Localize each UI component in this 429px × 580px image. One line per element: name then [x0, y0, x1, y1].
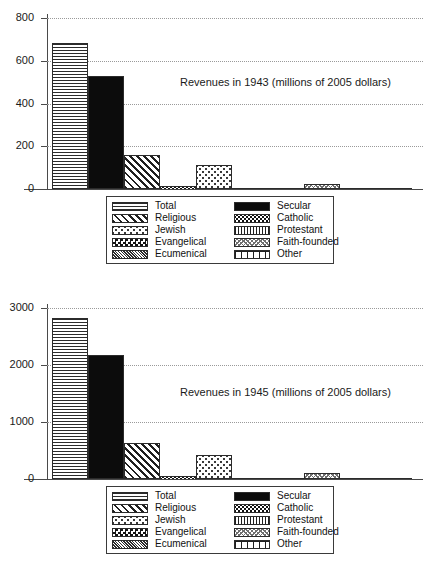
legend-swatch-catholic [234, 504, 270, 513]
legend-label-catholic: Catholic [277, 503, 339, 513]
legend-swatch-protestant [234, 516, 270, 525]
gridline [47, 18, 423, 19]
legend-label-secular: Secular [277, 201, 339, 211]
bar-evangelical [268, 188, 304, 190]
y-axis-tick-label: 800 [0, 12, 34, 23]
figure-page: Revenues in 1943 (millions of 2005 dolla… [0, 0, 429, 580]
legend-label-ecumenical: Ecumenical [155, 249, 229, 259]
legend-swatch-ecumenical [112, 250, 148, 259]
y-axis-tick-label: 600 [0, 55, 34, 66]
legend-swatch-faith-founded [234, 238, 270, 247]
legend-swatch-religious [112, 504, 148, 513]
legend-label-total: Total [155, 201, 229, 211]
legend-swatch-secular [234, 492, 270, 501]
legend-swatch-other [234, 250, 270, 259]
legend-label-evangelical: Evangelical [155, 527, 229, 537]
y-axis-tick [41, 104, 47, 105]
bar-protestant [232, 188, 268, 190]
plot-area-1945: Revenues in 1945 (millions of 2005 dolla… [47, 308, 423, 479]
legend-label-ecumenical: Ecumenical [155, 539, 229, 549]
y-axis-tick-label: 2000 [0, 359, 34, 370]
y-axis-tick [41, 479, 47, 480]
bar-jewish [196, 455, 232, 479]
legend-swatch-jewish [112, 516, 148, 525]
plot-area-1943: Revenues in 1943 (millions of 2005 dolla… [47, 18, 423, 189]
x-axis-line-1945 [24, 479, 423, 480]
y-axis-tick-label: 0 [0, 183, 34, 194]
legend-label-other: Other [277, 539, 339, 549]
y-axis-tick [41, 18, 47, 19]
legend-swatch-other [234, 540, 270, 549]
legend-swatch-religious [112, 214, 148, 223]
legend-swatch-total [112, 492, 148, 501]
bar-other [376, 188, 412, 190]
plot-title-1943: Revenues in 1943 (millions of 2005 dolla… [180, 76, 391, 89]
bar-jewish [196, 165, 232, 189]
legend-swatch-total [112, 202, 148, 211]
bar-secular [88, 355, 124, 479]
bar-other [376, 478, 412, 480]
bar-evangelical [268, 478, 304, 480]
bar-catholic [160, 476, 196, 479]
bar-secular [88, 76, 124, 189]
legend-label-secular: Secular [277, 491, 339, 501]
bar-faith-founded [304, 473, 340, 479]
legend-label-protestant: Protestant [277, 515, 339, 525]
y-axis-tick-label: 400 [0, 98, 34, 109]
bar-total [52, 43, 88, 189]
y-axis-tick [41, 365, 47, 366]
y-axis-tick-label: 1000 [0, 416, 34, 427]
bar-protestant [232, 478, 268, 480]
legend-1945: TotalSecularReligiousCatholicJewishProte… [106, 486, 334, 554]
gridline [47, 61, 423, 62]
chart-panel-1943: Revenues in 1943 (millions of 2005 dolla… [0, 0, 429, 290]
legend-label-jewish: Jewish [155, 225, 229, 235]
y-axis-tick [41, 61, 47, 62]
y-axis-tick [41, 189, 47, 190]
legend-label-faith-founded: Faith-founded [277, 527, 339, 537]
legend-swatch-ecumenical [112, 540, 148, 549]
chart-panel-1945: Revenues in 1945 (millions of 2005 dolla… [0, 290, 429, 580]
plot-title-1945: Revenues in 1945 (millions of 2005 dolla… [180, 386, 391, 399]
legend-label-religious: Religious [155, 503, 229, 513]
x-axis-line-1943 [24, 189, 423, 190]
legend-swatch-protestant [234, 226, 270, 235]
bar-religious [124, 443, 160, 479]
legend-label-evangelical: Evangelical [155, 237, 229, 247]
y-axis-tick [41, 422, 47, 423]
legend-swatch-evangelical [112, 238, 148, 247]
legend-swatch-evangelical [112, 528, 148, 537]
legend-swatch-faith-founded [234, 528, 270, 537]
legend-label-faith-founded: Faith-founded [277, 237, 339, 247]
y-axis-tick [41, 146, 47, 147]
legend-label-protestant: Protestant [277, 225, 339, 235]
legend-label-religious: Religious [155, 213, 229, 223]
legend-label-catholic: Catholic [277, 213, 339, 223]
gridline [47, 308, 423, 309]
y-axis-tick-label: 0 [0, 473, 34, 484]
legend-swatch-catholic [234, 214, 270, 223]
y-axis-tick-label: 200 [0, 140, 34, 151]
bar-ecumenical [340, 478, 376, 480]
bar-religious [124, 155, 160, 189]
legend-label-other: Other [277, 249, 339, 259]
legend-swatch-secular [234, 202, 270, 211]
y-axis-tick [41, 308, 47, 309]
legend-1943: TotalSecularReligiousCatholicJewishProte… [106, 196, 334, 264]
bar-faith-founded [304, 184, 340, 189]
bar-total [52, 318, 88, 479]
legend-swatch-jewish [112, 226, 148, 235]
bar-catholic [160, 186, 196, 189]
legend-label-total: Total [155, 491, 229, 501]
y-axis-tick-label: 3000 [0, 302, 34, 313]
legend-label-jewish: Jewish [155, 515, 229, 525]
bar-ecumenical [340, 188, 376, 190]
